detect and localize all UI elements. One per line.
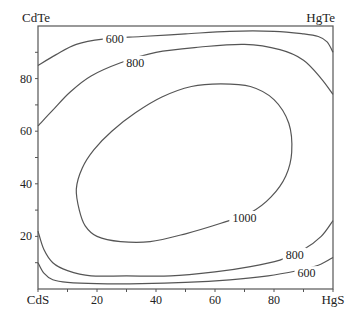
contour-label: 600 (297, 266, 315, 280)
x-tick-label: 60 (209, 293, 221, 307)
contour-label: 800 (126, 56, 144, 70)
x-tick-label: 80 (268, 293, 280, 307)
y-tick-label: 20 (20, 229, 32, 243)
contour-800-upper (38, 44, 333, 126)
corner-label-cdte: CdTe (22, 10, 50, 25)
y-tick-label: 80 (20, 72, 32, 86)
contour-label: 1000 (233, 211, 257, 225)
corner-label-hgs: HgS (321, 292, 344, 307)
contour-plot: 20406080204060801000800600800600 CdS HgS… (0, 0, 362, 322)
contour-label: 600 (106, 32, 124, 46)
corner-label-cds: CdS (27, 292, 49, 307)
y-tick-label: 60 (20, 124, 32, 138)
y-tick-label: 40 (20, 177, 32, 191)
x-tick-label: 40 (150, 293, 162, 307)
labels: 20406080204060801000800600800600 (20, 32, 318, 307)
x-tick-label: 20 (91, 293, 103, 307)
contour-label: 800 (286, 248, 304, 262)
corner-label-hgte: HgTe (306, 10, 335, 25)
contour-lines (38, 31, 333, 284)
